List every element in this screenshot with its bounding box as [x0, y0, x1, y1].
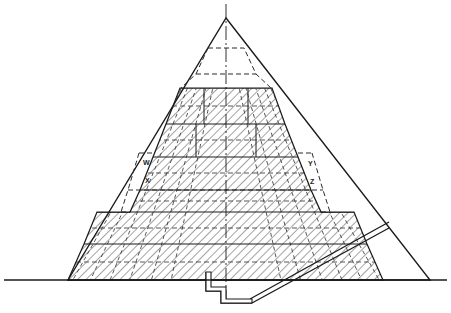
- pyramid-cross-section-figure: W X Y Z: [0, 0, 451, 313]
- phase-label-x: X: [145, 177, 150, 184]
- phase-label-z: Z: [310, 178, 315, 185]
- phase-label-w: W: [143, 159, 150, 166]
- phase-label-y: Y: [308, 160, 313, 167]
- pyramid-section-canvas: W X Y Z: [0, 0, 451, 313]
- phase-apex-right: [208, 48, 271, 88]
